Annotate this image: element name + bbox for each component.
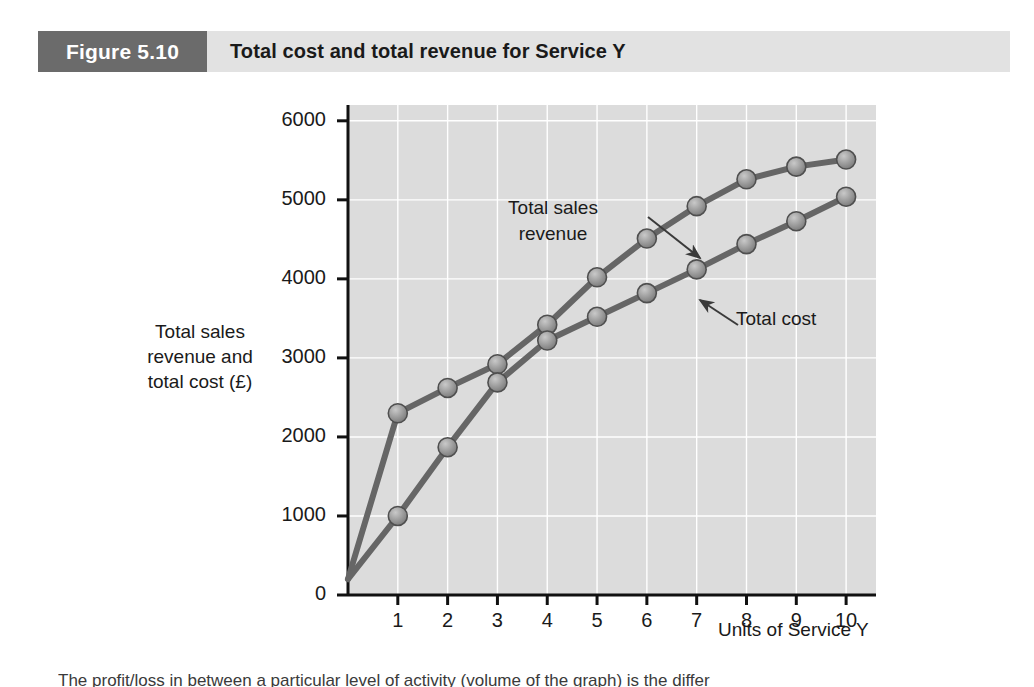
data-point-marker: [488, 373, 507, 392]
data-point-marker: [687, 260, 706, 279]
x-axis-tick-label: 10: [826, 609, 866, 632]
x-axis-tick-label: 3: [477, 609, 517, 632]
y-axis-tick-label: 2000: [254, 424, 326, 447]
y-axis-tick-label: 1000: [254, 503, 326, 526]
data-point: [588, 307, 607, 326]
figure-number-label: Figure 5.10: [66, 40, 179, 64]
data-point: [388, 404, 407, 423]
data-point: [588, 268, 607, 287]
data-point: [787, 157, 806, 176]
x-axis-tick-label: 6: [627, 609, 667, 632]
annotation-total-cost: Total cost: [736, 306, 896, 332]
x-axis-tick-label: 4: [527, 609, 567, 632]
data-point-marker: [588, 307, 607, 326]
y-axis-tick-label: 4000: [254, 266, 326, 289]
data-point-marker: [388, 404, 407, 423]
x-axis-tick-label: 2: [428, 609, 468, 632]
x-axis-tick-label: 7: [677, 609, 717, 632]
figure-number-box: Figure 5.10: [38, 31, 207, 72]
data-point: [837, 150, 856, 169]
y-axis-tick-label: 0: [254, 582, 326, 605]
data-point-marker: [438, 438, 457, 457]
data-point-marker: [787, 157, 806, 176]
chart-figure: Total sales revenue and total cost (£) U…: [0, 72, 1034, 642]
x-axis-tick-label: 1: [378, 609, 418, 632]
data-point: [737, 235, 756, 254]
data-point-marker: [538, 331, 557, 350]
body-text-fragment: The profit/loss in between a particular …: [58, 668, 958, 687]
data-point-marker: [737, 170, 756, 189]
data-point-marker: [737, 235, 756, 254]
data-point: [388, 506, 407, 525]
data-point: [438, 378, 457, 397]
data-point: [687, 197, 706, 216]
data-point-marker: [388, 506, 407, 525]
data-point-marker: [438, 378, 457, 397]
data-point-marker: [687, 197, 706, 216]
data-point-marker: [637, 284, 656, 303]
data-point-marker: [488, 355, 507, 374]
data-point-marker: [837, 150, 856, 169]
data-point: [837, 187, 856, 206]
data-point: [488, 373, 507, 392]
figure-title: Total cost and total revenue for Service…: [230, 31, 626, 72]
data-point-marker: [637, 229, 656, 248]
figure-header: Figure 5.10 Total cost and total revenue…: [38, 31, 1010, 72]
data-point-marker: [787, 212, 806, 231]
data-point: [488, 355, 507, 374]
x-axis-tick-label: 9: [776, 609, 816, 632]
data-point: [787, 212, 806, 231]
x-axis-tick-label: 8: [726, 609, 766, 632]
y-axis-tick-label: 5000: [254, 187, 326, 210]
data-point: [637, 229, 656, 248]
data-point: [737, 170, 756, 189]
y-axis-tick-label: 3000: [254, 345, 326, 368]
annotation-total-sales-revenue: Total sales revenue: [468, 195, 638, 247]
data-point: [438, 438, 457, 457]
data-point: [538, 331, 557, 350]
data-point: [637, 284, 656, 303]
y-axis-ticks: [337, 121, 348, 595]
data-point: [687, 260, 706, 279]
data-point-marker: [837, 187, 856, 206]
y-axis-tick-label: 6000: [254, 108, 326, 131]
data-point-marker: [588, 268, 607, 287]
x-axis-tick-label: 5: [577, 609, 617, 632]
